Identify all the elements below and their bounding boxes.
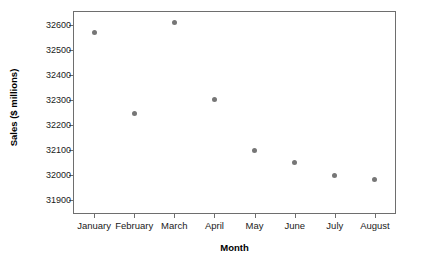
x-axis-tick-mark xyxy=(335,213,336,218)
y-axis-tick-label: 32500 xyxy=(46,45,71,54)
y-axis-tick-label: 32400 xyxy=(46,70,71,79)
x-axis-tick-label: January xyxy=(77,220,111,231)
scatter-chart-figure: 3260032500324003230032200321003200031900… xyxy=(0,0,430,269)
x-axis-tick-mark xyxy=(295,213,296,218)
x-axis-tick-mark xyxy=(255,213,256,218)
y-axis-tick-label: 32200 xyxy=(46,121,71,130)
x-axis-tick-mark xyxy=(375,213,376,218)
x-axis-title: Month xyxy=(73,242,396,253)
y-axis-tick-label: 32000 xyxy=(46,171,71,180)
x-axis-tick-mark xyxy=(134,213,135,218)
x-axis-tick-label: June xyxy=(284,220,305,231)
x-axis-tick-label: July xyxy=(326,220,343,231)
data-point xyxy=(252,148,257,153)
y-axis-tick-label: 32300 xyxy=(46,95,71,104)
y-axis-tick-label: 31900 xyxy=(46,196,71,205)
x-axis-tick-mark xyxy=(94,213,95,218)
data-point xyxy=(132,111,137,116)
data-point xyxy=(212,97,217,102)
data-point xyxy=(172,20,177,25)
y-axis-tick-label: 32100 xyxy=(46,146,71,155)
x-axis-tick-label: March xyxy=(161,220,187,231)
data-point xyxy=(292,160,297,165)
data-point xyxy=(372,177,377,182)
data-point xyxy=(92,30,97,35)
x-axis-tick-label: May xyxy=(246,220,264,231)
data-points-layer xyxy=(74,12,395,213)
x-axis-tick-label: August xyxy=(360,220,390,231)
plot-area: 3260032500324003230032200321003200031900… xyxy=(73,11,396,214)
x-axis-tick-label: April xyxy=(205,220,224,231)
x-axis-tick-mark xyxy=(214,213,215,218)
x-axis-tick-label: February xyxy=(115,220,153,231)
y-axis-title: Sales ($ millions) xyxy=(8,48,19,168)
data-point xyxy=(332,173,337,178)
y-axis-tick-label: 32600 xyxy=(46,20,71,29)
x-axis-tick-mark xyxy=(174,213,175,218)
